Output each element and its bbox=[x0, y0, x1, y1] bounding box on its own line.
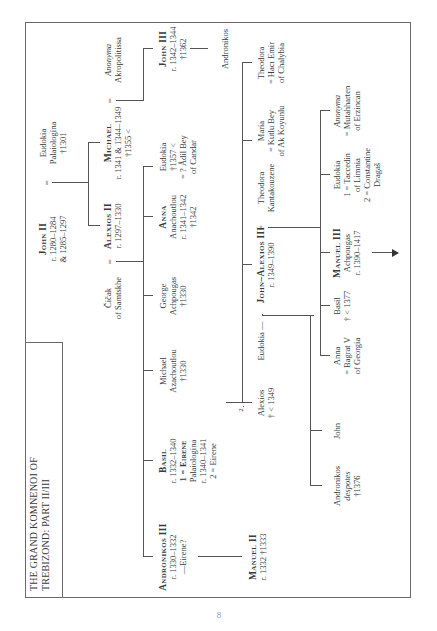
line bbox=[143, 48, 153, 49]
line bbox=[143, 166, 153, 167]
genealogy-chart: THE GRAND KOMNENOI OF TREBIZOND: PART II… bbox=[0, 0, 437, 631]
person-manuel-ii: Manuel II r. 1332 †1333 bbox=[248, 534, 268, 581]
marriage-sign: = bbox=[256, 225, 266, 230]
person-manuel-iii: Manuel III Achpougas r. 1390–1417 bbox=[332, 228, 362, 278]
line bbox=[143, 460, 153, 461]
person-john: John bbox=[332, 423, 342, 439]
line bbox=[88, 225, 100, 226]
line bbox=[262, 314, 263, 315]
line bbox=[320, 111, 321, 356]
line bbox=[320, 305, 330, 306]
person-michael-azachoutlou: Michael Azachoutlou †1330 bbox=[158, 349, 188, 392]
line bbox=[310, 430, 322, 431]
line bbox=[243, 406, 244, 407]
line bbox=[226, 402, 242, 403]
line bbox=[242, 140, 252, 141]
person-anna-bagrat: Anna = Bagrat V of Georgia bbox=[332, 337, 362, 375]
line bbox=[242, 264, 252, 265]
person-maria: Maria = Kutlu Bey of Ak Koyunlu bbox=[256, 106, 286, 157]
line bbox=[320, 174, 330, 175]
line bbox=[116, 100, 143, 101]
line bbox=[143, 167, 144, 557]
person-eudokia-palaiologina: Eudokia Palaiologina †1301 bbox=[38, 122, 68, 165]
line bbox=[262, 315, 314, 316]
line bbox=[143, 556, 153, 557]
person-anna-anachoutlou: Anna Anachoutlou r. 1341–1342 †1342 bbox=[158, 195, 198, 240]
person-anonyma-akropolitissa: Anonyma Akropolitissa bbox=[103, 37, 123, 83]
page-number: 8 bbox=[217, 610, 222, 620]
line bbox=[310, 315, 311, 486]
line bbox=[143, 216, 153, 217]
person-eudokia-taccedin: Eudokia 1 = Taccedin of Limnia 2 = Const… bbox=[332, 148, 382, 202]
line bbox=[190, 48, 208, 49]
line bbox=[242, 402, 252, 403]
person-alexios: Alexios † < 1349 bbox=[256, 388, 276, 418]
arrow-down-icon bbox=[392, 249, 399, 257]
person-john-iii: John III r. 1342–1344 †1362 bbox=[158, 27, 188, 72]
person-john-ii: John II r. 1280–1284 & 1285–1297 bbox=[38, 216, 68, 263]
continuation-arrow-line bbox=[372, 252, 394, 253]
person-andronikos-son: Andronikos bbox=[220, 29, 230, 69]
marriage-marker: 2 bbox=[236, 408, 246, 412]
person-michael: Michael r. 1341 & 1344–1349 †1355 < bbox=[103, 107, 133, 180]
line bbox=[320, 252, 330, 253]
line bbox=[242, 62, 252, 63]
marriage-sign: = bbox=[42, 180, 52, 185]
line bbox=[268, 227, 320, 228]
person-andronikos-iii: Andronikos III r. 1330–1332 —Eirene? bbox=[158, 523, 188, 591]
line bbox=[143, 49, 144, 101]
line bbox=[88, 142, 89, 226]
person-eudokia: Eudokia — bbox=[256, 322, 266, 361]
person-cicak: Čičak of Samtskhe bbox=[103, 277, 123, 319]
person-theodora-kantakouzene: Theodora Kantakouzene bbox=[256, 164, 276, 213]
person-theodora-haci: Theodora = Hacı Emir of Chalybia bbox=[256, 42, 286, 84]
line bbox=[320, 355, 330, 356]
line bbox=[143, 370, 153, 371]
marriage-sign: = bbox=[105, 259, 115, 264]
person-john-alexios-iii: John–Alexios III r. 1349–1390 bbox=[256, 226, 276, 303]
person-george-achpougas: George Achpougas †1330 bbox=[158, 277, 188, 315]
person-eudokia-candar: Eudokia †1357 < = ? Âdil Bey of Candar bbox=[158, 135, 198, 179]
line bbox=[88, 142, 100, 143]
person-andronikos-despotes: Andronikos despotes †1376 bbox=[332, 466, 362, 506]
line bbox=[143, 295, 153, 296]
line bbox=[52, 182, 88, 183]
marriage-sign: = bbox=[105, 98, 115, 103]
line bbox=[320, 110, 330, 111]
person-basil: Basil r. 1332–1340 1 = Eirene Palaiologi… bbox=[158, 439, 218, 484]
line bbox=[116, 261, 143, 262]
chart-title: THE GRAND KOMNENOI OF TREBIZOND: PART II… bbox=[28, 457, 52, 591]
person-anonyma-mutahharten: Anonyma = Mutahharten of Erzincan bbox=[332, 86, 362, 136]
person-basil-jr: Basil † < 1377 bbox=[332, 291, 352, 321]
line bbox=[198, 556, 242, 557]
person-alexios-ii: Alexios II r. 1297–1330 bbox=[103, 203, 123, 249]
line bbox=[310, 485, 322, 486]
line bbox=[242, 63, 243, 403]
